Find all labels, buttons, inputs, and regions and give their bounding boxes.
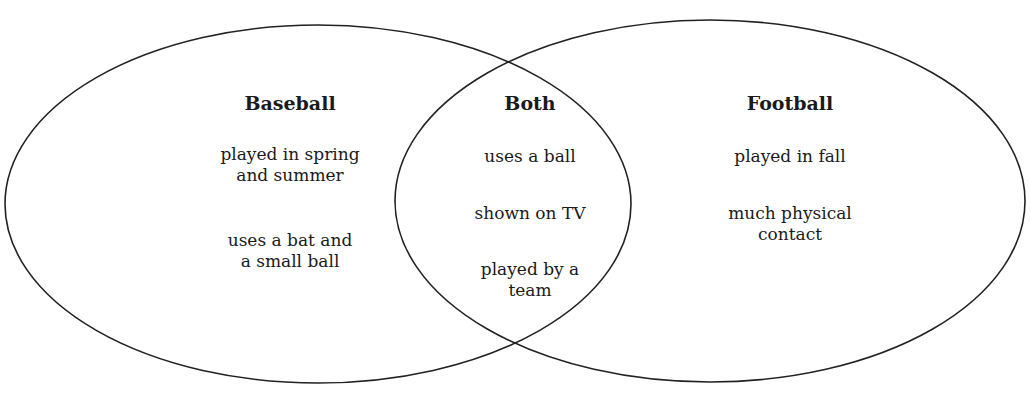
football-circle xyxy=(395,20,1025,382)
text-line: and summer xyxy=(160,165,420,186)
football-item-1: played in fall xyxy=(680,146,900,167)
text-line: contact xyxy=(680,224,900,245)
venn-diagram xyxy=(0,0,1030,396)
text-line: uses a bat and xyxy=(160,230,420,251)
text-line: much physical xyxy=(680,203,900,224)
both-item-2: shown on TV xyxy=(430,203,630,224)
both-title: Both xyxy=(430,92,630,114)
baseball-item-2: uses a bat and a small ball xyxy=(160,230,420,272)
both-item-1: uses a ball xyxy=(430,146,630,167)
text-line: played in fall xyxy=(680,146,900,167)
text-line: played by a xyxy=(430,259,630,280)
football-title: Football xyxy=(700,92,880,114)
football-item-2: much physical contact xyxy=(680,203,900,245)
text-line: uses a ball xyxy=(430,146,630,167)
text-line: team xyxy=(430,280,630,301)
both-item-3: played by a team xyxy=(430,259,630,301)
baseball-item-1: played in spring and summer xyxy=(160,144,420,186)
baseball-title: Baseball xyxy=(180,92,400,114)
text-line: played in spring xyxy=(160,144,420,165)
text-line: a small ball xyxy=(160,251,420,272)
text-line: shown on TV xyxy=(430,203,630,224)
